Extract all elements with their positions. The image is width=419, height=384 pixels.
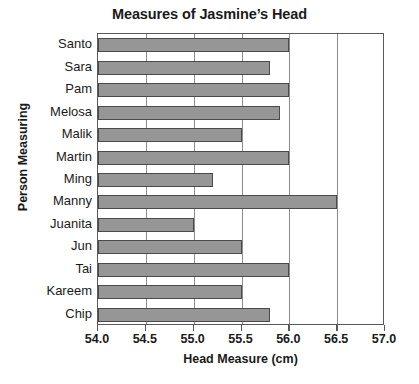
- bar: [98, 151, 289, 165]
- bar-chart: Measures of Jasmine’s Head Person Measur…: [0, 0, 419, 384]
- x-axis-tick: [241, 325, 242, 331]
- x-axis-tick-label: 56.5: [313, 332, 359, 346]
- y-axis-tick-label: Melosa: [9, 105, 97, 119]
- bar: [98, 263, 289, 277]
- bar: [98, 106, 280, 120]
- bar: [98, 173, 213, 187]
- x-axis-tick-label: 57.0: [361, 332, 407, 346]
- y-axis-tick-label: Ming: [9, 172, 97, 186]
- bar: [98, 128, 242, 142]
- y-axis-tick-label: Tai: [9, 262, 97, 276]
- y-axis-tick-label: Kareem: [9, 284, 97, 298]
- x-axis-tick-labels: 54.054.555.055.556.056.557.0: [97, 332, 384, 350]
- y-axis-tick-label: Juanita: [9, 217, 97, 231]
- y-axis-tick-label: Manny: [9, 194, 97, 208]
- chart-title: Measures of Jasmine’s Head: [0, 6, 419, 22]
- y-axis-tick-labels: SantoSaraPamMelosaMalikMartinMingMannyJu…: [5, 33, 97, 325]
- x-axis-tick: [97, 325, 98, 331]
- x-axis-tick: [336, 325, 337, 331]
- plot-area: [97, 33, 384, 325]
- bar: [98, 218, 194, 232]
- x-axis-tick: [384, 325, 385, 331]
- y-axis-tick-label: Martin: [9, 150, 97, 164]
- bar: [98, 38, 289, 52]
- x-axis-tick-label: 54.0: [74, 332, 120, 346]
- y-axis-tick-label: Sara: [9, 60, 97, 74]
- gridline: [289, 34, 290, 324]
- y-axis-tick-label: Chip: [9, 307, 97, 321]
- bar: [98, 240, 242, 254]
- x-axis-tick-label: 55.5: [218, 332, 264, 346]
- y-axis-tick-label: Jun: [9, 239, 97, 253]
- bar: [98, 61, 270, 75]
- gridline: [242, 34, 243, 324]
- bar: [98, 195, 337, 209]
- x-axis-tick-label: 55.0: [170, 332, 216, 346]
- x-axis-tick-label: 54.5: [122, 332, 168, 346]
- x-axis-title: Head Measure (cm): [97, 352, 384, 366]
- y-axis-tick-label: Pam: [9, 82, 97, 96]
- gridline: [337, 34, 338, 324]
- x-axis-tick: [288, 325, 289, 331]
- x-axis-tick-label: 56.0: [265, 332, 311, 346]
- y-axis-tick-label: Malik: [9, 127, 97, 141]
- x-axis-tick: [145, 325, 146, 331]
- y-axis-tick-label: Santo: [9, 37, 97, 51]
- bar: [98, 308, 270, 322]
- x-axis-tick: [193, 325, 194, 331]
- bar: [98, 285, 242, 299]
- bar: [98, 83, 289, 97]
